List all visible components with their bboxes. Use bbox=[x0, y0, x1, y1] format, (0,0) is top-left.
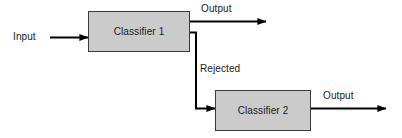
edge-label-output-2: Output bbox=[323, 90, 354, 101]
edge-label-input: Input bbox=[13, 31, 36, 42]
edge-label-rejected: Rejected bbox=[200, 63, 240, 74]
node-classifier-2: Classifier 2 bbox=[215, 90, 311, 131]
node-classifier-1-label: Classifier 1 bbox=[114, 26, 165, 37]
node-classifier-2-label: Classifier 2 bbox=[238, 105, 289, 116]
edge-label-output-1: Output bbox=[201, 3, 232, 14]
node-classifier-1: Classifier 1 bbox=[88, 11, 190, 52]
classifier-cascade-diagram: Classifier 1 Classifier 2 Input Output R… bbox=[0, 0, 402, 138]
